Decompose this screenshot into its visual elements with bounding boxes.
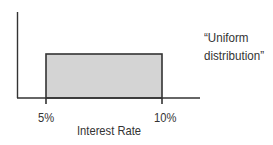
annotation-line-1: “Uniform: [204, 29, 249, 47]
uniform-distribution-chart: 5% 10% Interest Rate “Uniform distributi…: [0, 0, 273, 145]
uniform-density-block: [46, 54, 162, 98]
x-axis-label: Interest Rate: [77, 124, 141, 138]
annotation-line-2: distribution”: [204, 47, 264, 65]
tick-label-5: 5%: [38, 111, 54, 125]
tick-label-10: 10%: [154, 111, 176, 125]
